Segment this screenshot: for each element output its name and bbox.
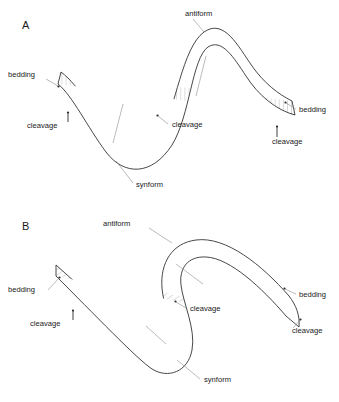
panel-b-bedding-right-pointer bbox=[283, 287, 285, 289]
panel-a-letter: A bbox=[22, 19, 30, 31]
panel-a-cleavage-left-pointer bbox=[67, 111, 69, 113]
panel-b-cleavage-middle-label: cleavage bbox=[190, 304, 220, 313]
panel-a-cleavage-middle-pointer bbox=[156, 114, 158, 116]
panel-b-bedding-right-label: bedding bbox=[299, 290, 326, 299]
panel-b-bedding-left-pointer bbox=[58, 276, 60, 278]
panel-a-antiform-label: antiform bbox=[185, 9, 212, 18]
panel-b-cleavage-left-label: cleavage bbox=[30, 319, 60, 328]
panel-b-letter: B bbox=[22, 220, 29, 232]
panel-a-bedding-left-label: bedding bbox=[8, 70, 35, 79]
panel-b-cleavage-right-label: cleavage bbox=[292, 326, 322, 335]
panel-b-cleavage-right-pointer bbox=[299, 318, 301, 320]
panel-b-antiform-label: antiform bbox=[103, 219, 130, 228]
panel-b-fold-band bbox=[0, 201, 339, 402]
panel-b-cleavage-left-pointer bbox=[72, 309, 74, 311]
panel-a-cleavage-middle-label: cleavage bbox=[172, 120, 202, 129]
panel-a-bedding-left-pointer bbox=[57, 85, 59, 87]
panel-a: A antiform synform bedding bbox=[0, 0, 339, 201]
figure-canvas: A antiform synform bedding bbox=[0, 0, 339, 402]
panel-b-bedding-left-leader bbox=[48, 278, 59, 290]
panel-a-bedding-surface-lower bbox=[58, 45, 295, 169]
panel-a-antiform-leader bbox=[193, 19, 204, 32]
panel-b-bedding-left-label: bedding bbox=[8, 285, 35, 294]
panel-a-synform-label: synform bbox=[136, 180, 163, 189]
panel-a-cleavage-left-label: cleavage bbox=[27, 121, 57, 130]
geology-fold-cleavage-figure: A antiform synform bedding bbox=[0, 0, 339, 402]
panel-b-synform-label: synform bbox=[204, 375, 231, 384]
panel-a-fold-band bbox=[0, 0, 339, 201]
panel-b-cleavage-middle-pointer bbox=[174, 300, 176, 302]
panel-b: B antiform synform bedding c bbox=[0, 201, 339, 402]
panel-a-bedding-right-pointer bbox=[284, 101, 286, 103]
panel-a-cleavage-right-label: cleavage bbox=[272, 137, 302, 146]
panel-a-bedding-left-leader bbox=[46, 79, 58, 86]
panel-a-cleavage-right-pointer bbox=[276, 125, 278, 127]
panel-b-antiform-leader bbox=[149, 228, 172, 243]
panel-a-bedding-right-label: bedding bbox=[299, 105, 326, 114]
